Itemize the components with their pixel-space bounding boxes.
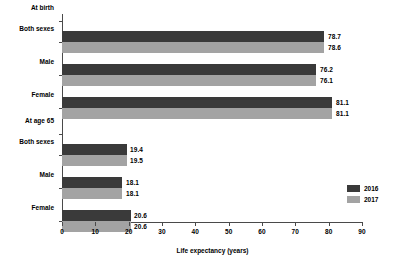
x-tick-60: [262, 222, 263, 226]
x-tick-10: [95, 222, 96, 226]
x-tick-label-40: 40: [182, 228, 208, 235]
x-tick-label-10: 10: [82, 228, 108, 235]
x-axis-title: Life expectancy (years): [62, 247, 363, 254]
x-tick-label-60: 60: [249, 228, 275, 235]
x-tick-20: [129, 222, 130, 226]
value-label-birth-both-sexes-2017: 78.6: [328, 42, 341, 53]
x-tick-label-90: 90: [349, 228, 375, 235]
value-label-birth-female-2017: 81.1: [336, 108, 349, 119]
value-label-age65-female-2016: 20.6: [134, 210, 147, 221]
bar-age65-male-2016: [62, 177, 122, 188]
value-label-birth-male-2017: 76.1: [320, 75, 333, 86]
plot-area: 78.7 78.6 76.2 76.1 81.1 81.1 19.4 19.5 …: [62, 14, 362, 222]
value-label-birth-male-2016: 76.2: [320, 64, 333, 75]
x-tick-label-20: 20: [116, 228, 142, 235]
legend: 2016 2017: [347, 184, 378, 206]
x-tick-30: [162, 222, 163, 226]
value-label-age65-male-2016: 18.1: [126, 177, 139, 188]
bar-age65-both-sexes-2016: [62, 144, 127, 155]
bar-age65-both-sexes-2017: [62, 155, 127, 166]
x-tick-label-70: 70: [282, 228, 308, 235]
x-tick-40: [195, 222, 196, 226]
value-label-age65-both-sexes-2017: 19.5: [130, 155, 143, 166]
value-label-birth-both-sexes-2016: 78.7: [328, 31, 341, 42]
legend-item-2017: 2017: [347, 195, 378, 204]
bar-birth-male-2016: [62, 64, 316, 75]
group-header-at-birth: At birth: [0, 4, 54, 11]
bar-birth-male-2017: [62, 75, 316, 86]
value-label-age65-male-2017: 18.1: [126, 188, 139, 199]
bar-birth-female-2017: [62, 108, 332, 119]
value-label-age65-both-sexes-2016: 19.4: [130, 144, 143, 155]
x-tick-50: [229, 222, 230, 226]
y-tick-at-age-65: [59, 134, 62, 135]
x-tick-label-0: 0: [49, 228, 75, 235]
legend-swatch-2016: [347, 185, 360, 192]
x-tick-label-80: 80: [316, 228, 342, 235]
legend-label-2017: 2017: [364, 196, 378, 203]
row-label-age65-female: Female: [0, 204, 54, 211]
y-tick-at-birth: [59, 21, 62, 22]
life-expectancy-bar-chart: At birth Both sexes Male Female At age 6…: [0, 0, 403, 271]
x-tick-90: [362, 222, 363, 226]
bar-age65-male-2017: [62, 188, 122, 199]
row-label-age65-male: Male: [0, 171, 54, 178]
row-label-birth-male: Male: [0, 58, 54, 65]
row-label-birth-both-sexes: Both sexes: [0, 25, 54, 32]
bar-birth-female-2016: [62, 97, 332, 108]
x-tick-label-50: 50: [216, 228, 242, 235]
x-tick-label-30: 30: [149, 228, 175, 235]
group-header-at-age-65: At age 65: [0, 117, 54, 124]
row-label-birth-female: Female: [0, 91, 54, 98]
bar-birth-both-sexes-2016: [62, 31, 324, 42]
row-label-age65-both-sexes: Both sexes: [0, 138, 54, 145]
x-tick-0: [62, 222, 63, 226]
legend-label-2016: 2016: [364, 185, 378, 192]
x-tick-80: [329, 222, 330, 226]
value-label-birth-female-2016: 81.1: [336, 97, 349, 108]
legend-item-2016: 2016: [347, 184, 378, 193]
category-label-column: At birth Both sexes Male Female At age 6…: [0, 0, 58, 208]
bar-age65-female-2016: [62, 210, 131, 221]
bar-birth-both-sexes-2017: [62, 42, 324, 53]
x-tick-70: [295, 222, 296, 226]
legend-swatch-2017: [347, 196, 360, 203]
